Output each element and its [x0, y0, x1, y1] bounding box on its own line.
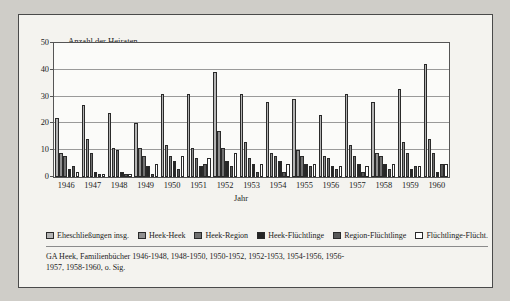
x-axis-tick-label: 1953 — [238, 181, 264, 190]
bar — [379, 156, 382, 177]
bar — [282, 172, 285, 177]
figure-frame: Anzahl der Heiraten 01020304050 19461947… — [18, 14, 493, 288]
x-axis-tick-label: 1948 — [106, 181, 132, 190]
legend-swatch-icon — [46, 232, 54, 239]
bar — [120, 172, 123, 177]
bar — [240, 94, 243, 177]
bar — [444, 164, 447, 177]
bar — [191, 148, 194, 177]
bar — [323, 156, 326, 177]
legend-item: Region-Flüchtlinge — [333, 231, 406, 240]
bar — [266, 102, 269, 177]
bar — [98, 174, 101, 177]
bar — [339, 166, 342, 177]
bar — [234, 153, 237, 177]
legend-swatch-icon — [138, 232, 146, 239]
bar — [292, 99, 295, 177]
bar — [252, 164, 255, 177]
bar — [424, 64, 427, 177]
bar — [392, 164, 395, 177]
legend-item: Heek-Flüchtlinge — [257, 231, 324, 240]
bar-group — [54, 43, 80, 177]
bar — [169, 156, 172, 177]
bar — [124, 174, 127, 177]
y-axis-tick-label: 0 — [45, 172, 49, 181]
bar — [410, 169, 413, 177]
bar-groups — [54, 43, 449, 177]
bar — [199, 166, 202, 177]
bar — [116, 150, 119, 177]
bar — [375, 153, 378, 177]
source-note: GA Heek, Familienbücher 1946-1948, 1948-… — [46, 252, 346, 273]
bar — [146, 166, 149, 177]
bar — [383, 164, 386, 177]
bar — [165, 145, 168, 177]
y-axis-tick-label: 40 — [41, 64, 49, 73]
bar-group — [291, 43, 317, 177]
bar — [304, 164, 307, 177]
bar-group — [238, 43, 264, 177]
bar — [313, 164, 316, 177]
bar-group — [370, 43, 396, 177]
bar — [151, 174, 154, 177]
bar — [217, 131, 220, 177]
legend-label: Heek-Flüchtlinge — [268, 231, 324, 240]
bar — [345, 94, 348, 177]
bar — [278, 161, 281, 177]
bar — [357, 164, 360, 177]
bar — [207, 158, 210, 177]
bar — [187, 94, 190, 177]
bar — [309, 166, 312, 177]
legend-swatch-icon — [257, 232, 265, 239]
bar — [335, 169, 338, 177]
bar — [286, 164, 289, 177]
y-axis-tick-label: 20 — [41, 118, 49, 127]
bar — [361, 172, 364, 177]
y-axis-tick-label: 30 — [41, 91, 49, 100]
x-axis-tick-label: 1947 — [79, 181, 105, 190]
bar — [349, 145, 352, 177]
bar — [112, 148, 115, 177]
bar — [76, 172, 79, 177]
bar — [428, 139, 431, 177]
bar — [128, 174, 131, 177]
bar — [55, 118, 58, 177]
bar-group — [133, 43, 159, 177]
chart-page: Anzahl der Heiraten 01020304050 19461947… — [0, 0, 510, 301]
legend-swatch-icon — [194, 232, 202, 239]
bar — [161, 94, 164, 177]
bar — [134, 123, 137, 177]
x-axis-tick-label: 1957 — [344, 181, 370, 190]
bar-group — [423, 43, 449, 177]
bar — [371, 102, 374, 177]
bar — [86, 139, 89, 177]
bar — [72, 166, 75, 177]
bar — [414, 166, 417, 177]
x-axis-tick-label: 1950 — [159, 181, 185, 190]
x-axis-tick-label: 1952 — [212, 181, 238, 190]
bar — [260, 164, 263, 177]
x-axis-title: Jahr — [234, 194, 248, 203]
bar — [296, 150, 299, 177]
bar — [248, 158, 251, 177]
bar — [319, 115, 322, 177]
bar — [195, 158, 198, 177]
x-axis-tick-labels: 1946194719481949195019511952195319541955… — [53, 181, 450, 190]
legend: Eheschließungen insg.Heek-HeekHeek-Regio… — [46, 231, 488, 240]
bar — [221, 148, 224, 177]
x-axis-tick-label: 1956 — [318, 181, 344, 190]
y-axis-tick-label: 50 — [41, 38, 49, 47]
bar — [213, 72, 216, 177]
legend-label: Heek-Region — [205, 231, 248, 240]
x-axis-tick-label: 1960 — [424, 181, 450, 190]
x-axis-tick-label: 1949 — [132, 181, 158, 190]
bar-group — [80, 43, 106, 177]
bar — [327, 158, 330, 177]
bar-group — [159, 43, 185, 177]
bar — [138, 148, 141, 177]
bar — [94, 172, 97, 177]
x-axis-tick-label: 1951 — [185, 181, 211, 190]
bar-group — [186, 43, 212, 177]
bar-group — [317, 43, 343, 177]
legend-item: Flüchtlinge-Flücht. — [415, 231, 488, 240]
